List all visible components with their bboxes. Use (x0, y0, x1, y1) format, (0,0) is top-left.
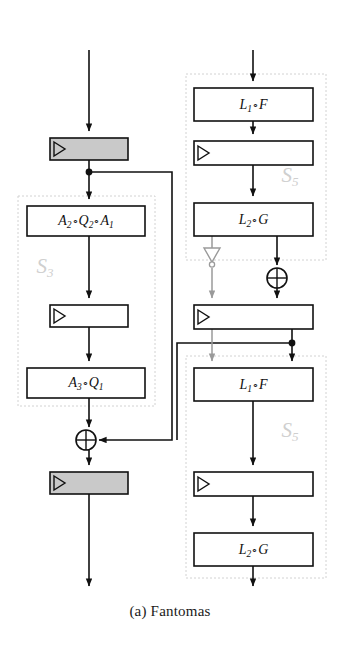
xor-gate-xor-right[interactable] (267, 268, 287, 288)
block-l2g-top[interactable]: L2∘G (194, 203, 313, 236)
block-reg-bottom-left[interactable] (50, 472, 128, 494)
block-label: A2∘Q2∘A1 (57, 213, 114, 230)
region-label-s5-top: S5 (282, 163, 300, 189)
block-reg-right-top[interactable] (194, 141, 313, 165)
not-bubble-icon (209, 262, 214, 267)
fantomas-diagram: A2∘Q2∘A1A3∘Q1L1∘FL2∘GL1∘FL2∘G S3S5S5 (0, 0, 340, 653)
figure-caption: (a) Fantomas (0, 603, 340, 620)
region-label-s3: S3 (37, 254, 55, 280)
block-reg-right-mid[interactable] (194, 305, 313, 329)
region-label-s5-bottom: S5 (282, 418, 300, 444)
block-a2q2a1[interactable]: A2∘Q2∘A1 (27, 206, 145, 236)
block-reg-left-mid[interactable] (50, 305, 128, 327)
block-body (194, 472, 313, 496)
block-body (50, 305, 128, 327)
junction-dot-tap-left-top (86, 169, 93, 176)
block-a3q1[interactable]: A3∘Q1 (27, 368, 145, 398)
block-body (50, 138, 128, 160)
junction-dot-tap-right-mid (289, 340, 296, 347)
block-body (50, 472, 128, 494)
figure-root: A2∘Q2∘A1A3∘Q1L1∘FL2∘GL1∘FL2∘G S3S5S5 (a)… (0, 0, 340, 653)
gates (76, 248, 287, 450)
xor-gate-xor-left[interactable] (76, 430, 96, 450)
block-l1f-top[interactable]: L1∘F (194, 88, 313, 121)
block-reg-right-low[interactable] (194, 472, 313, 496)
block-body (194, 305, 313, 329)
blocks: A2∘Q2∘A1A3∘Q1L1∘FL2∘GL1∘FL2∘G (27, 88, 313, 566)
block-reg-top-left[interactable] (50, 138, 128, 160)
block-l1f-bottom[interactable]: L1∘F (194, 368, 313, 401)
block-l2g-bottom[interactable]: L2∘G (194, 533, 313, 566)
block-body (194, 141, 313, 165)
not-gate[interactable] (204, 248, 220, 267)
